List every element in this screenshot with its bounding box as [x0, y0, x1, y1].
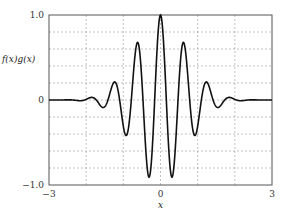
- tick-labels: −303−1.001.0: [22, 10, 275, 199]
- x-axis-label: x: [158, 200, 163, 210]
- x-tick-label: −3: [42, 189, 56, 199]
- y-tick-label: 1.0: [30, 10, 45, 20]
- y-axis-label: f(x)g(x): [1, 54, 36, 64]
- x-tick-label: 0: [158, 189, 164, 199]
- y-tick-label: 0: [38, 95, 44, 105]
- chart: −303−1.001.0 x f(x)g(x): [0, 0, 284, 214]
- x-tick-label: 3: [269, 189, 275, 199]
- y-tick-label: −1.0: [22, 180, 44, 190]
